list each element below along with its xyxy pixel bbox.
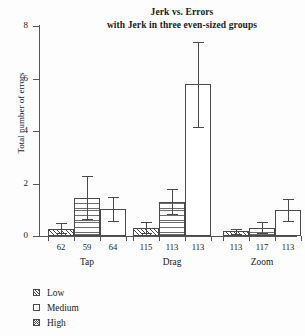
error-bar-cap-upper (257, 222, 268, 223)
error-bar-stem (198, 42, 199, 126)
x-tick-count-label: 64 (100, 243, 126, 252)
error-bar-cap-lower (167, 214, 178, 215)
x-tick-mark (211, 236, 212, 241)
error-bar-cap-lower (141, 233, 152, 234)
legend-item-high: High (33, 315, 79, 330)
error-bar-stem (146, 222, 147, 233)
legend-label-medium: Medium (47, 303, 79, 313)
y-tick-label: 2 (2, 179, 28, 188)
error-bar-cap-lower (108, 221, 119, 222)
legend-label-low: Low (47, 288, 64, 298)
x-tick-mark (133, 236, 134, 241)
y-tick-label: 6 (2, 74, 28, 83)
x-tick-count-label: 117 (249, 243, 275, 252)
x-tick-count-label: 113 (275, 243, 301, 252)
error-bar-stem (172, 189, 173, 215)
y-tick-mark (33, 131, 39, 132)
error-bar-stem (262, 222, 263, 233)
error-bar-cap-upper (167, 189, 178, 190)
x-tick-mark (159, 236, 160, 241)
x-tick-count-label: 59 (74, 243, 100, 252)
y-tick-mark (33, 236, 39, 237)
y-tick-label: 0 (2, 231, 28, 240)
x-axis-line (39, 236, 297, 237)
error-bar-cap-lower (82, 219, 93, 220)
y-axis-line (39, 25, 40, 237)
legend-item-low: Low (33, 285, 79, 300)
x-group-label-tap: Tap (48, 257, 126, 267)
chart-title-line2: with Jerk in three even-sized groups (62, 19, 302, 32)
chart-title-line1: Jerk vs. Errors (62, 6, 302, 19)
error-bar-cap-upper (56, 223, 67, 224)
x-group-label-zoom: Zoom (223, 257, 301, 267)
x-tick-mark (301, 236, 302, 241)
legend-swatch-low-icon (33, 289, 40, 296)
x-tick-mark (275, 236, 276, 241)
x-tick-count-label: 115 (133, 243, 159, 252)
x-tick-mark (126, 236, 127, 241)
y-tick-label: 4 (2, 126, 28, 135)
error-bar-cap-lower (283, 221, 294, 222)
legend-label-high: High (47, 318, 66, 328)
y-tick-mark (33, 26, 39, 27)
x-tick-mark (74, 236, 75, 241)
error-bar-cap-upper (283, 199, 294, 200)
error-bar-stem (113, 197, 114, 221)
error-bar-cap-upper (141, 222, 152, 223)
y-tick-label: 8 (2, 21, 28, 30)
error-bar-stem (61, 223, 62, 234)
error-bar-cap-lower (193, 127, 204, 128)
x-tick-count-label: 113 (185, 243, 211, 252)
x-group-label-drag: Drag (133, 257, 211, 267)
chart-legend: Low Medium High (33, 285, 79, 330)
x-tick-mark (185, 236, 186, 241)
y-tick-mark (33, 184, 39, 185)
x-tick-count-label: 62 (48, 243, 74, 252)
error-bar-stem (288, 199, 289, 221)
y-tick-mark (33, 79, 39, 80)
error-bar-cap-upper (231, 229, 242, 230)
error-bar-cap-upper (193, 42, 204, 43)
error-bar-cap-lower (231, 234, 242, 235)
x-tick-count-label: 113 (223, 243, 249, 252)
error-bar-stem (87, 176, 88, 219)
x-tick-mark (223, 236, 224, 241)
error-bar-cap-upper (108, 197, 119, 198)
chart-figure: Jerk vs. Errors with Jerk in three even-… (0, 0, 305, 336)
x-tick-mark (100, 236, 101, 241)
legend-swatch-medium-icon (33, 304, 40, 311)
x-tick-mark (48, 236, 49, 241)
error-bar-cap-lower (257, 233, 268, 234)
legend-swatch-high-icon (33, 319, 40, 326)
legend-item-medium: Medium (33, 300, 79, 315)
error-bar-cap-lower (56, 233, 67, 234)
x-tick-count-label: 113 (159, 243, 185, 252)
x-tick-mark (249, 236, 250, 241)
y-axis-label: Total number of errors (16, 48, 26, 178)
chart-title: Jerk vs. Errors with Jerk in three even-… (62, 6, 302, 31)
error-bar-cap-upper (82, 176, 93, 177)
